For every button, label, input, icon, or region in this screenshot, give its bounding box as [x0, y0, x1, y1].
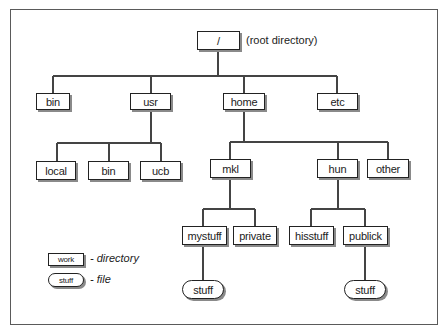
- node-root-label: /: [217, 35, 220, 47]
- legend-directory-example: work: [58, 255, 74, 264]
- legend-file-example: stuff: [59, 276, 73, 285]
- node-home: home: [223, 93, 265, 110]
- file-mystuff-stuff: stuff: [182, 280, 224, 299]
- root-annotation: (root directory): [246, 34, 318, 46]
- legend-directory-box: work: [48, 253, 84, 266]
- node-publick: publick: [343, 226, 388, 245]
- node-mystuff: mystuff: [182, 226, 227, 245]
- file-mystuff-stuff-label: stuff: [193, 284, 213, 296]
- node-mkl-label: mkl: [222, 163, 239, 175]
- node-ucb-label: ucb: [152, 165, 169, 177]
- legend-directory-text: - directory: [90, 252, 139, 264]
- node-local-label: local: [45, 165, 67, 177]
- node-hun: hun: [317, 159, 358, 178]
- node-bin-label: bin: [46, 96, 60, 108]
- node-bin: bin: [36, 93, 70, 110]
- legend-file-text: - file: [90, 273, 111, 285]
- node-other: other: [367, 159, 409, 178]
- node-local: local: [36, 161, 76, 180]
- node-usr: usr: [130, 93, 171, 110]
- legend-file-oval: stuff: [48, 273, 84, 287]
- node-private-label: private: [239, 230, 271, 242]
- node-mkl: mkl: [210, 159, 251, 178]
- file-publick-stuff: stuff: [344, 280, 386, 299]
- node-ucb: ucb: [140, 161, 181, 180]
- node-etc-label: etc: [330, 96, 344, 108]
- node-mystuff-label: mystuff: [188, 230, 222, 242]
- node-home-label: home: [231, 96, 258, 108]
- node-etc: etc: [317, 93, 358, 110]
- node-other-label: other: [376, 163, 400, 175]
- node-usr-bin-label: bin: [101, 165, 115, 177]
- node-usr-bin: bin: [88, 161, 129, 180]
- node-hun-label: hun: [329, 163, 347, 175]
- node-root: /: [197, 31, 240, 50]
- node-hisstuff-label: hisstuff: [295, 230, 328, 242]
- file-publick-stuff-label: stuff: [355, 284, 375, 296]
- node-hisstuff: hisstuff: [289, 226, 334, 245]
- node-private: private: [233, 226, 277, 245]
- node-usr-label: usr: [143, 96, 158, 108]
- node-publick-label: publick: [349, 230, 382, 242]
